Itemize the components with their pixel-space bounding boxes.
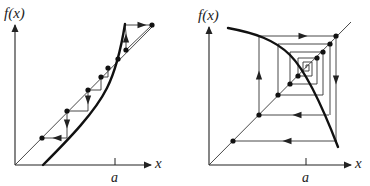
right-y-axis-label: f(x) bbox=[198, 8, 219, 23]
iterate-point bbox=[320, 49, 325, 54]
direction-arrow-icon bbox=[138, 22, 147, 28]
iterate-point bbox=[98, 74, 103, 79]
right-panel-convergent bbox=[209, 22, 351, 165]
function-curve bbox=[43, 24, 125, 165]
right-tick-label-a: a bbox=[302, 171, 309, 185]
direction-arrow-icon bbox=[283, 138, 292, 144]
right-x-axis-label: x bbox=[355, 156, 362, 171]
iterate-point bbox=[275, 92, 280, 97]
direction-arrow-icon bbox=[64, 120, 70, 129]
direction-arrow-icon bbox=[293, 112, 302, 118]
direction-arrow-icon bbox=[53, 135, 62, 141]
left-panel-divergent bbox=[15, 22, 155, 165]
identity-line bbox=[15, 26, 153, 165]
iterate-point bbox=[295, 73, 300, 78]
direction-arrow-icon bbox=[333, 76, 339, 85]
iterate-point bbox=[39, 135, 44, 140]
iterate-point bbox=[230, 138, 235, 143]
left-x-axis-label: x bbox=[155, 156, 162, 171]
iterate-point bbox=[333, 33, 338, 38]
iterate-point bbox=[287, 81, 292, 86]
iterate-point bbox=[314, 55, 319, 60]
direction-arrow-icon bbox=[256, 71, 262, 80]
iterate-point bbox=[149, 22, 154, 27]
direction-arrow-icon bbox=[85, 96, 91, 105]
iterate-point bbox=[327, 41, 332, 46]
direction-arrow-icon bbox=[299, 33, 308, 39]
left-y-axis-label: f(x) bbox=[4, 6, 25, 21]
iterate-point bbox=[256, 112, 261, 117]
iterate-point bbox=[105, 65, 110, 70]
iterate-point bbox=[85, 87, 90, 92]
iterate-point bbox=[115, 56, 120, 61]
iterate-point bbox=[64, 108, 69, 113]
iterate-point bbox=[123, 47, 128, 52]
cobweb-figure bbox=[0, 0, 370, 186]
left-tick-label-a: a bbox=[111, 171, 118, 185]
